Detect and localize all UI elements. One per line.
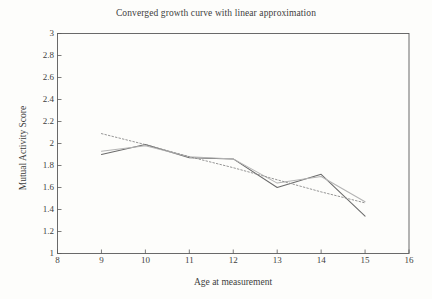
axis-tick-marks — [58, 34, 410, 254]
data-series-layer — [101, 134, 365, 217]
figure-container: Converged growth curve with linear appro… — [0, 0, 432, 299]
axis-frame — [58, 34, 410, 254]
series-line — [101, 145, 365, 217]
series-line — [101, 134, 365, 203]
figure-caption-fragment — [0, 289, 432, 299]
plot-canvas — [0, 0, 432, 299]
